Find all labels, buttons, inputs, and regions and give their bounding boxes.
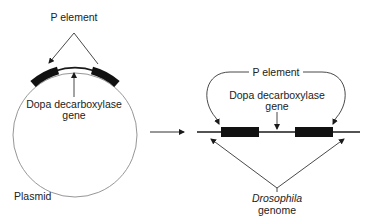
p-element-pointer-right [74,33,98,64]
plasmid-p-element-label: P element [50,11,97,23]
drosophila-label: Drosophila [252,192,302,204]
plasmid-p-element-right [92,71,117,85]
genome-p-element-left [221,127,259,137]
plasmid-p-element-left [33,71,58,85]
plasmid-circle [13,73,137,197]
genome-pointer-right [277,139,344,188]
genome-label: genome [258,204,296,216]
plasmid-gene-segment [55,68,95,71]
genome-pointer-left [211,139,277,188]
plasmid-label: Plasmid [14,190,51,202]
diagram-graphics [0,0,366,223]
p-element-transformation-diagram: P element Dopa decarboxylase gene Plasmi… [0,0,366,223]
genome-p-element-label: P element [250,66,301,78]
genome-p-element-right [295,127,333,137]
p-element-pointer-left [49,33,74,63]
plasmid-gene-label-line2: gene [62,109,85,121]
genome-gene-label-line2: gene [265,100,288,112]
